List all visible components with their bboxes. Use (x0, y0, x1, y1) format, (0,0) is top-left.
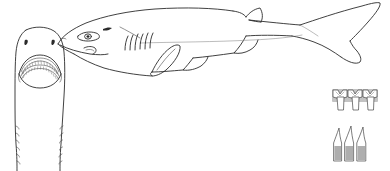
lower-tooth-stipple (334, 146, 341, 160)
upper-tooth-root (337, 97, 344, 110)
gill-slit (16, 133, 19, 136)
shark-identification-plate (0, 0, 390, 171)
body-back-to-tail (249, 20, 300, 25)
gill-slit (16, 126, 19, 129)
upper-tooth-root (367, 97, 374, 110)
gill-slits-lateral (125, 33, 153, 50)
upper-tooth-root (352, 97, 359, 110)
snout-nostril-lateral (61, 38, 66, 39)
tooth-tick (34, 67, 35, 69)
gill-slit (130, 35, 133, 50)
ventral-head-outline-left (15, 30, 26, 171)
gill-slit (16, 140, 19, 143)
dorsal-fin (246, 8, 262, 22)
nostril-left-opening (24, 40, 27, 45)
lower-tooth (345, 126, 354, 161)
caudal-keel-line (300, 25, 318, 36)
caudal-upper-lobe (300, 3, 380, 41)
labial-furrow-inner (86, 49, 94, 51)
nostril-left (24, 40, 27, 45)
figure-lateral-body (58, 3, 380, 76)
tooth-tick (55, 76, 56, 78)
gill-slit (60, 126, 63, 129)
spiracle (103, 27, 112, 30)
tooth-tick (31, 68, 32, 70)
body-ventral-front (152, 70, 183, 72)
lower-tooth (334, 128, 342, 161)
gill-slit (140, 34, 143, 49)
gill-slit (17, 147, 20, 150)
anal-fin (234, 36, 258, 53)
ventral-head-outline (26, 27, 65, 171)
lower-tooth-stipple (358, 146, 366, 160)
caudal-lower-lobe (292, 36, 341, 57)
lower-tooth-band-lower (22, 69, 59, 80)
gill-slit (150, 33, 153, 48)
mouth-lower-arc (19, 74, 61, 88)
lower-tooth (357, 127, 366, 161)
belly-to-head (74, 54, 152, 76)
gill-slit (17, 161, 20, 164)
eye-pupil-center (87, 35, 90, 38)
tooth-tick (35, 61, 36, 64)
figure-ventral-head (15, 27, 65, 171)
body-ventral-outline (246, 35, 292, 36)
plate-canvas (0, 0, 390, 171)
body-back-to-dorsalfin (233, 11, 246, 17)
tooth-tick (32, 63, 33, 66)
gill-slit (125, 36, 128, 50)
tooth-tick (53, 74, 54, 76)
figure-upper-teeth (332, 89, 378, 110)
lower-tooth-stipple (345, 146, 353, 160)
nostril-right-opening (51, 40, 54, 45)
caudal-subterminal-notch (341, 41, 361, 63)
pelvic-fin (183, 57, 208, 70)
branchial-contour (120, 27, 140, 38)
lateral-line (140, 35, 302, 43)
gill-slit (145, 33, 148, 49)
pectoral-fin-crease (157, 49, 175, 70)
nostril-right (51, 40, 54, 45)
tooth-tick (51, 72, 52, 75)
body-dorsal-outline (58, 8, 233, 44)
mouth-line-lateral (60, 45, 108, 55)
body-ventral-mid (193, 53, 234, 58)
figure-lower-teeth (334, 126, 366, 161)
